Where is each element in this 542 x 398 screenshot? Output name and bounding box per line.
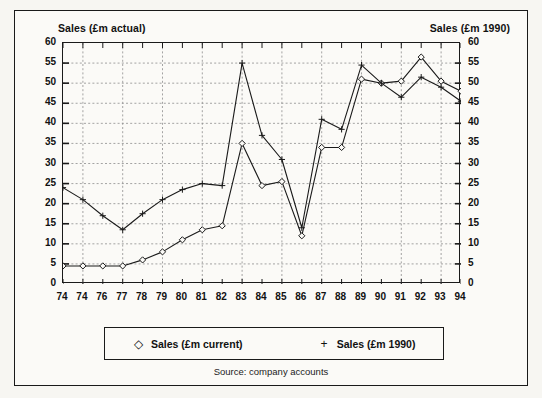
x-tick-label: 94	[449, 291, 471, 303]
plot-area	[62, 42, 460, 283]
y-tick-label-left: 40	[36, 117, 56, 127]
x-tick-label: 81	[190, 291, 212, 303]
y-tick-label-left: 10	[36, 238, 56, 248]
y-axis-labels-left: 051015202530354045505560	[32, 0, 56, 398]
y-tick-label-right: 50	[468, 77, 488, 87]
x-tick-label: 82	[210, 291, 232, 303]
y-tick-label-right: 40	[468, 117, 488, 127]
legend-item-sales-1990[interactable]: + Sales (£m 1990)	[317, 337, 416, 351]
y-tick-label-left: 60	[36, 37, 56, 47]
plus-marker-icon: +	[317, 337, 332, 351]
x-tick-label: 92	[409, 291, 431, 303]
y-tick-label-right: 15	[468, 218, 488, 228]
x-tick-label: 74	[71, 291, 93, 303]
y-tick-label-right: 30	[468, 158, 488, 168]
y-tick-label-left: 20	[36, 198, 56, 208]
legend-label-sales-current: Sales (£m current)	[151, 338, 243, 350]
x-tick-label: 74	[51, 291, 73, 303]
y-tick-label-right: 20	[468, 198, 488, 208]
legend-label-sales-1990: Sales (£m 1990)	[337, 338, 416, 350]
x-tick-label: 91	[389, 291, 411, 303]
chart-plot	[63, 43, 461, 284]
x-tick-label: 80	[170, 291, 192, 303]
y-tick-label-left: 15	[36, 218, 56, 228]
y-tick-label-right: 25	[468, 178, 488, 188]
y-tick-label-right: 0	[468, 278, 488, 288]
y-axis-labels-right: 051015202530354045505560	[468, 0, 492, 398]
x-axis-labels: 7474767778798081828384858687888990919293…	[62, 291, 460, 305]
source-note: Source: company accounts	[0, 366, 542, 377]
diamond-marker-icon: ◇	[131, 337, 146, 351]
legend: ◇ Sales (£m current) + Sales (£m 1990)	[104, 327, 444, 360]
x-tick-label: 87	[310, 291, 332, 303]
y-tick-label-right: 45	[468, 97, 488, 107]
x-tick-label: 79	[151, 291, 173, 303]
y-tick-label-right: 5	[468, 258, 488, 268]
legend-item-sales-current[interactable]: ◇ Sales (£m current)	[131, 337, 243, 351]
x-tick-label: 78	[131, 291, 153, 303]
y-tick-label-right: 10	[468, 238, 488, 248]
x-tick-label: 90	[369, 291, 391, 303]
left-axis-title: Sales (£m actual)	[58, 22, 146, 34]
y-tick-label-left: 45	[36, 97, 56, 107]
y-tick-label-left: 35	[36, 137, 56, 147]
y-tick-label-left: 55	[36, 57, 56, 67]
y-tick-label-right: 35	[468, 137, 488, 147]
x-tick-label: 77	[111, 291, 133, 303]
y-tick-label-left: 50	[36, 77, 56, 87]
x-tick-label: 76	[91, 291, 113, 303]
y-tick-label-left: 5	[36, 258, 56, 268]
x-tick-label: 84	[250, 291, 272, 303]
y-tick-label-right: 55	[468, 57, 488, 67]
y-tick-label-left: 25	[36, 178, 56, 188]
x-tick-label: 89	[350, 291, 372, 303]
x-tick-label: 83	[230, 291, 252, 303]
x-tick-label: 93	[429, 291, 451, 303]
x-tick-label: 85	[270, 291, 292, 303]
x-tick-label: 86	[290, 291, 312, 303]
y-tick-label-right: 60	[468, 37, 488, 47]
y-tick-label-left: 0	[36, 278, 56, 288]
y-tick-label-left: 30	[36, 158, 56, 168]
chart-figure: Sales (£m actual) Sales (£m 1990) 051015…	[0, 0, 542, 398]
x-tick-label: 88	[330, 291, 352, 303]
